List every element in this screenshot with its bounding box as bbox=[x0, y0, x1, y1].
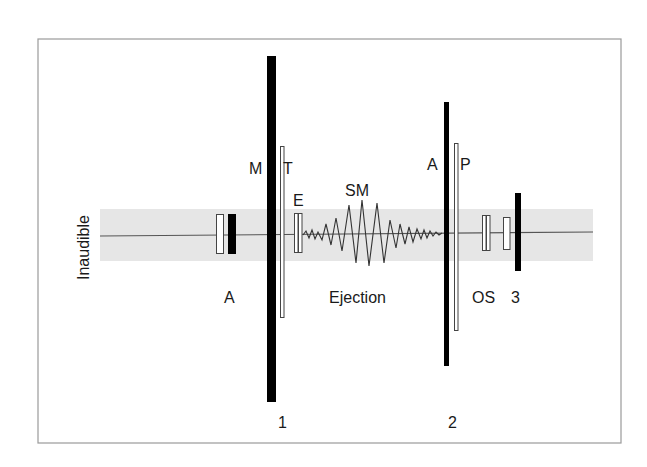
tricuspid-label: T bbox=[283, 160, 293, 177]
ejection-click-bar-a bbox=[295, 214, 299, 253]
ejection-click-label: E bbox=[293, 192, 304, 209]
inaudible-label: Inaudible bbox=[75, 215, 92, 280]
s3-solid-bar bbox=[515, 193, 521, 271]
third-sound-label: 3 bbox=[511, 289, 520, 306]
s1-label: 1 bbox=[278, 414, 287, 431]
systolic-murmur-label: SM bbox=[345, 182, 369, 199]
s2-pulmonic-bar bbox=[455, 144, 459, 331]
s2-aortic-bar bbox=[444, 102, 449, 366]
mitral-label: M bbox=[249, 160, 262, 177]
ejection-label: Ejection bbox=[329, 289, 386, 306]
pulmonic-label: P bbox=[460, 156, 471, 173]
aortic-label: A bbox=[427, 156, 438, 173]
s4-solid-component bbox=[228, 214, 236, 254]
s4-outline-component bbox=[217, 215, 224, 254]
opening-snap-bar-a bbox=[483, 216, 487, 251]
opening-snap-label: OS bbox=[472, 289, 495, 306]
ejection-click-bar-b bbox=[299, 214, 303, 253]
phonocardiogram-diagram: Inaudible A M T E SM Ejection A P OS 3 1… bbox=[0, 0, 647, 467]
atrial-label: A bbox=[224, 289, 235, 306]
opening-snap-bar-b bbox=[487, 216, 491, 251]
s2-label: 2 bbox=[448, 414, 457, 431]
s3-outline-component bbox=[504, 218, 511, 250]
s1-mitral-bar bbox=[267, 56, 276, 402]
